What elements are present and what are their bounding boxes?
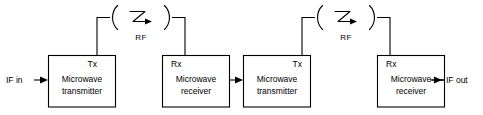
block-3-line1: Microwave: [257, 74, 298, 84]
block-1-line2: transmitter: [62, 86, 102, 96]
block-4-line2: receiver: [396, 86, 426, 96]
block-microwave-transmitter-1[interactable]: Tx Microwave transmitter: [49, 56, 116, 108]
interstage-connector: [230, 77, 244, 84]
block-3-line2: transmitter: [257, 86, 297, 96]
block-4-line1: Microwave: [391, 74, 432, 84]
block-microwave-receiver-1[interactable]: Rx Microwave receiver: [163, 56, 230, 108]
block-1-port-label: Tx: [88, 59, 98, 69]
if-out-label: IF out: [446, 75, 468, 85]
block-4-port-label: Rx: [386, 59, 397, 69]
rf-wave-arrow-icon-1: [113, 6, 170, 30]
block-2-line2: receiver: [181, 86, 211, 96]
block-microwave-transmitter-2[interactable]: Tx Microwave transmitter: [244, 56, 311, 108]
block-1-line1: Microwave: [62, 74, 103, 84]
if-in-label: IF in: [6, 75, 23, 85]
if-in-connector: [34, 77, 48, 84]
block-2-line1: Microwave: [176, 74, 217, 84]
rf-wave-arrow-icon-2: [318, 6, 375, 30]
rf-link-2-label: RF: [340, 33, 351, 42]
rf-link-1-label: RF: [135, 33, 146, 42]
diagram-canvas: IF in Tx Microwave transmitter RF Rx Mic…: [0, 0, 483, 115]
block-2-port-label: Rx: [171, 59, 182, 69]
block-3-port-label: Tx: [293, 59, 303, 69]
